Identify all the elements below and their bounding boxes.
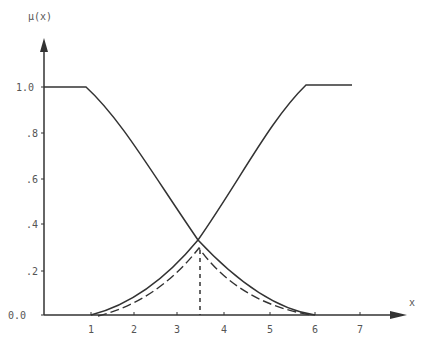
y-tick-label: 1.0 <box>16 82 34 93</box>
x-tick-label: 2 <box>131 324 137 335</box>
x-tick-label: 5 <box>267 324 273 335</box>
y-tick-label: .2 <box>26 266 38 277</box>
x-tick-label: 6 <box>312 324 318 335</box>
x-tick-label: 4 <box>221 324 227 335</box>
membership-function-chart: μ(x) x 0.0 .2 .4 .6 .8 1.0 1 2 3 4 5 6 7 <box>0 0 430 350</box>
series-decreasing-curve <box>44 87 315 315</box>
x-axis-label: x <box>409 297 415 308</box>
y-tick-label: 0.0 <box>8 310 26 321</box>
y-axis-arrow-icon <box>40 38 48 52</box>
y-tick-label: .8 <box>26 128 38 139</box>
series-increasing-curve <box>91 85 352 315</box>
y-axis-label: μ(x) <box>28 11 52 22</box>
y-ticks: 0.0 .2 .4 .6 .8 1.0 <box>8 82 44 321</box>
y-tick-label: .6 <box>26 174 38 185</box>
x-tick-label: 3 <box>174 324 180 335</box>
x-tick-label: 1 <box>88 324 94 335</box>
series-dashed-curve <box>98 248 312 316</box>
x-axis-arrow-icon <box>390 311 407 319</box>
x-tick-label: 7 <box>357 324 363 335</box>
y-tick-label: .4 <box>26 219 38 230</box>
